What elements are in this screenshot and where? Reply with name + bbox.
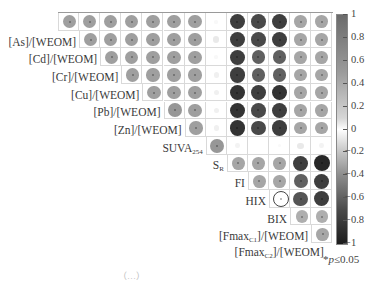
significance-star-icon (300, 39, 302, 41)
row-label: HIX (246, 194, 266, 208)
correlation-circle (213, 36, 219, 42)
significance-star-icon (90, 39, 92, 41)
matrix-cell (206, 31, 227, 49)
matrix-cell (164, 102, 185, 120)
matrix-cell (269, 102, 290, 120)
row-label: FI (235, 176, 245, 190)
significance-star-icon (131, 21, 133, 23)
matrix-cell (269, 48, 290, 66)
correlation-circle (319, 143, 324, 148)
matrix-cell (227, 102, 248, 120)
colorbar-tick-label: −0.2 (345, 145, 364, 157)
matrix-cell (290, 48, 311, 66)
p-threshold: ≤0.05 (334, 253, 359, 265)
row-label: SR (213, 158, 224, 176)
significance-star-icon (300, 127, 302, 129)
matrix-cell (311, 31, 332, 49)
matrix-cell (269, 13, 290, 31)
colorbar-tick-label: 0.8 (351, 31, 364, 43)
row-label: [As]/[WEOM] (8, 35, 76, 49)
matrix-cell (121, 31, 142, 49)
matrix-cell (311, 137, 332, 155)
correlation-circle (214, 125, 219, 130)
significance-star-icon (300, 56, 302, 58)
matrix-cell (311, 66, 332, 84)
colorbar-tick-label: 0 (351, 123, 356, 135)
correlation-circle (214, 55, 218, 59)
matrix-cell (121, 48, 142, 66)
colorbar-tick-label: 1 (351, 8, 356, 20)
matrix-cell (164, 13, 185, 31)
matrix-cell (248, 172, 269, 190)
matrix-cell (290, 172, 311, 190)
colorbar-tick (343, 129, 347, 130)
matrix-cell (269, 172, 290, 190)
matrix-cell (311, 155, 332, 173)
matrix-cell (269, 119, 290, 137)
row-label: [Cd]/[WEOM] (29, 52, 97, 66)
row-label: [Zn]/[WEOM] (114, 123, 182, 137)
matrix-cell (227, 31, 248, 49)
significance-star-icon (279, 180, 281, 182)
matrix-cell (290, 13, 311, 31)
colorbar-tick (343, 14, 347, 15)
matrix-cell (290, 31, 311, 49)
matrix-cell (311, 48, 332, 66)
significance-legend: *p≤0.05 (323, 253, 359, 265)
matrix-cell (206, 66, 227, 84)
significance-star-icon (300, 180, 302, 182)
significance-star-icon (173, 74, 175, 76)
matrix-cell (311, 208, 332, 226)
significance-star-icon (321, 180, 323, 182)
significance-star-icon (279, 39, 281, 41)
matrix-cell (79, 13, 100, 31)
matrix-cell (206, 84, 227, 102)
matrix-cell (290, 208, 311, 226)
matrix-cell (206, 13, 227, 31)
significance-star-icon (110, 21, 112, 23)
matrix-cell (185, 84, 206, 102)
matrix-cell (227, 48, 248, 66)
significance-star-icon (300, 92, 302, 94)
matrix-cell (164, 48, 185, 66)
significance-star-icon (194, 39, 196, 41)
matrix-cell (248, 119, 269, 137)
significance-star-icon (321, 74, 323, 76)
matrix-cell (269, 155, 290, 173)
matrix-cell (227, 66, 248, 84)
matrix-cell (248, 84, 269, 102)
matrix-cell (311, 225, 332, 243)
matrix-cell (311, 190, 332, 208)
colorbar-tick-label: 0.6 (351, 54, 364, 66)
matrix-cell (185, 102, 206, 120)
significance-star-icon (279, 92, 281, 94)
significance-star-icon (194, 21, 196, 23)
matrix-cell (227, 13, 248, 31)
significance-star-icon (173, 21, 175, 23)
significance-star-icon (152, 39, 154, 41)
colorbar-tick-label: −0.8 (345, 214, 364, 226)
significance-star-icon (152, 74, 154, 76)
matrix-cell (290, 190, 311, 208)
matrix-cell (248, 66, 269, 84)
matrix-cell (248, 102, 269, 120)
significance-star-icon (279, 127, 281, 129)
colorbar-tick-label: −0.4 (345, 168, 364, 180)
significance-star-icon (300, 21, 302, 23)
significance-star-icon (173, 92, 175, 94)
matrix-cell (269, 66, 290, 84)
matrix-cell (142, 13, 163, 31)
significance-star-icon (280, 198, 282, 200)
matrix-cell (121, 13, 142, 31)
matrix-cell (269, 31, 290, 49)
matrix-cell (121, 66, 142, 84)
matrix-cell (290, 66, 311, 84)
significance-star-icon (279, 56, 281, 58)
correlation-circle (214, 20, 218, 24)
colorbar-tick-label: −0.6 (345, 191, 364, 203)
significance-star-icon (321, 198, 323, 200)
matrix-cell (227, 84, 248, 102)
matrix-cell (206, 137, 227, 155)
correlation-circle (214, 108, 219, 113)
matrix-cell (185, 48, 206, 66)
